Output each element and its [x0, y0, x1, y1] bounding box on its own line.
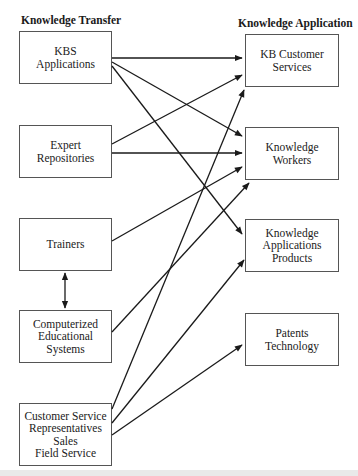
arrow-trainers-to-kw — [112, 167, 242, 241]
arrow-csr-to-pt — [112, 345, 242, 435]
arrow-expert-to-kbcs — [112, 75, 242, 144]
arrow-csr-to-kap — [112, 260, 244, 423]
arrow-kbs-to-kw — [112, 62, 242, 136]
bottom-strip — [0, 470, 358, 476]
connection-arrows — [0, 0, 358, 476]
arrow-kbs-to-kap — [112, 66, 242, 234]
arrow-csr-to-kbcs — [112, 90, 244, 409]
arrow-ces-to-kw — [112, 183, 249, 332]
